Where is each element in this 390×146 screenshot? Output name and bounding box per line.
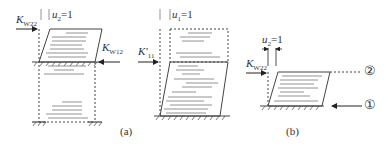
label-u1: u1=1 [172,9,193,23]
level-marker-1: ① [364,99,376,111]
label-k-w22-b: KW22 [246,58,267,72]
label-k-w22-a: KW22 [16,14,37,28]
caption-b: (b) [286,126,299,137]
label-k11-prime: K'11 [138,46,154,60]
caption-a: (a) [120,126,132,137]
label-u2-a: u2=1 [52,9,73,23]
panel-a-right-diagram [138,9,230,120]
level-marker-2: ② [364,65,376,77]
label-u2-b: u2=1 [262,34,283,48]
label-k-w12: KW12 [102,42,123,56]
